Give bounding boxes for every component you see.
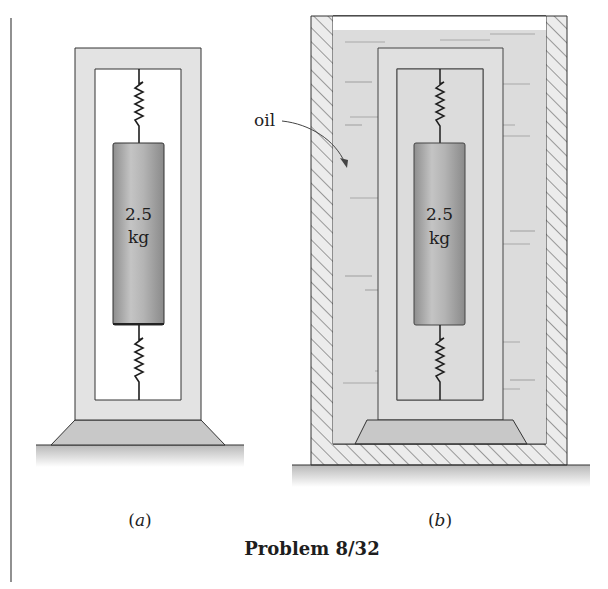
- oil-label: oil: [254, 110, 275, 130]
- panel-a: 2.5 kg (a): [36, 48, 244, 530]
- base-b: [355, 420, 527, 444]
- mass-value-b: 2.5: [426, 204, 453, 224]
- mass-value-a: 2.5: [125, 204, 152, 224]
- panel-label-b: (b): [428, 510, 452, 530]
- base-a: [51, 420, 225, 445]
- figure-caption: Problem 8/32: [244, 538, 379, 559]
- spring-bottom-a: [135, 325, 143, 400]
- spring-top-a: [135, 69, 143, 143]
- mass-unit-a: kg: [128, 227, 149, 247]
- panel-b: 2.5 kg oil (b): [254, 16, 590, 530]
- mass-unit-b: kg: [429, 228, 450, 248]
- panel-label-a: (a): [128, 510, 151, 530]
- ground-a: [36, 445, 244, 467]
- ground-b: [292, 465, 590, 487]
- diagram-canvas: 2.5 kg (a): [0, 0, 608, 589]
